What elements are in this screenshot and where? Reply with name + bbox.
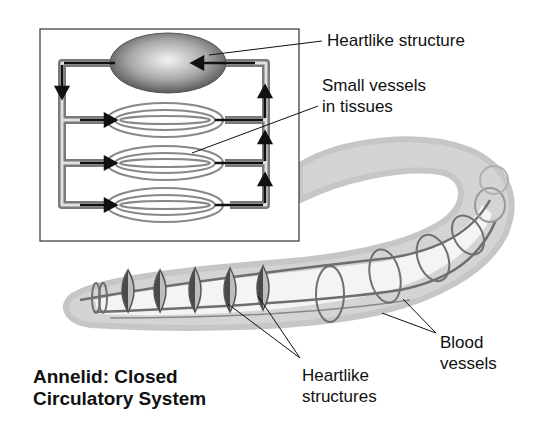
label-blood-vessels-line2: vessels bbox=[440, 354, 497, 374]
inset-diagram bbox=[40, 29, 299, 241]
label-blood-vessels-line1: Blood bbox=[440, 333, 483, 353]
label-small-vessels-line2: in tissues bbox=[322, 97, 393, 117]
label-heartlike-structures-line2: structures bbox=[302, 387, 377, 407]
label-small-vessels-line1: Small vessels bbox=[322, 76, 426, 96]
diagram-title-line1: Annelid: Closed bbox=[33, 366, 178, 388]
label-heartlike-structures-line1: Heartlike bbox=[302, 366, 369, 386]
label-heartlike-structure: Heartlike structure bbox=[327, 31, 465, 51]
diagram-title-line2: Circulatory System bbox=[33, 388, 206, 410]
